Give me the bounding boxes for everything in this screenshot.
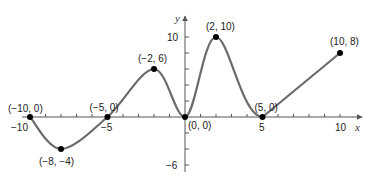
x-tick-label-neg10: −10 [11,122,28,133]
x-tick-label-10: 10 [335,122,347,133]
point-label: (5, 0) [255,102,278,113]
point-label: (−2, 6) [138,53,167,64]
point-label: (−10, 0) [8,103,43,114]
data-point [105,114,111,120]
x-tick-label-5: 5 [259,122,265,133]
function-graph: (−10, 0)(−8, −4)(−5, 0)(−2, 6)(0, 0)(2, … [0,0,369,178]
y-axis-ticks [185,37,189,165]
data-point [151,66,157,72]
key-points: (−10, 0)(−8, −4)(−5, 0)(−2, 6)(0, 0)(2, … [8,21,359,167]
data-point [213,34,219,40]
x-axis-label: x [354,121,360,133]
data-point [337,50,343,56]
y-tick-label-10: 10 [167,32,179,43]
axes [22,16,362,172]
y-tick-label-neg6: −6 [166,160,178,171]
y-axis-label: y [174,12,180,24]
point-label: (2, 10) [206,21,235,32]
x-tick-label-neg5: −5 [101,122,113,133]
point-label: (−5, 0) [90,102,119,113]
data-point [27,114,33,120]
point-label: (−8, −4) [39,156,74,167]
data-point [58,146,64,152]
point-label: (0, 0) [188,120,211,131]
data-point [260,114,266,120]
point-label: (10, 8) [330,36,359,47]
